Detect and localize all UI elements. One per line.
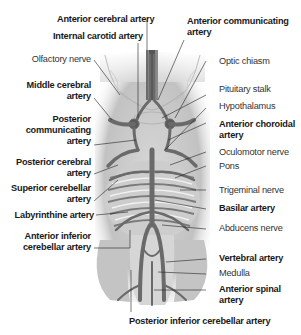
label-line: cerebellar artery — [23, 242, 91, 253]
label-line: artery — [27, 91, 91, 102]
label-line: Anterior spinal — [219, 284, 281, 295]
label-line: artery — [219, 130, 295, 141]
label-line: artery — [11, 194, 91, 205]
label-line: artery — [187, 27, 289, 38]
label-line: communicating — [26, 125, 91, 136]
label-superior-cerebellar-artery: Superior cerebellar artery — [11, 183, 91, 205]
label-anterior-cerebral-artery: Anterior cerebral artery — [57, 14, 154, 25]
label-posterior-inferior-cerebellar-artery: Posterior inferior cerebellar artery — [129, 316, 270, 327]
label-anterior-choroidal-artery: Anterior choroidal artery — [219, 119, 295, 141]
label-anterior-inferior-cerebellar-artery: Anterior inferior cerebellar artery — [23, 231, 91, 253]
label-middle-cerebral-artery: Middle cerebral artery — [27, 80, 91, 102]
label-line: artery — [16, 168, 91, 179]
label-line: Anterior inferior — [23, 231, 91, 242]
label-anterior-spinal-artery: Anterior spinal artery — [219, 284, 281, 306]
label-line: Anterior choroidal — [219, 119, 295, 130]
label-pituitary-stalk: Pituitary stalk — [219, 84, 271, 95]
label-posterior-cerebral-artery: Posterior cerebral artery — [16, 157, 91, 179]
label-abducens-nerve: Abducens nerve — [219, 223, 283, 234]
label-vertebral-artery: Vertebral artery — [219, 253, 283, 264]
label-line: artery — [26, 136, 91, 147]
label-pons: Pons — [219, 161, 239, 172]
label-line: Superior cerebellar — [11, 183, 91, 194]
label-basilar-artery: Basilar artery — [219, 203, 275, 214]
label-oculomotor-nerve: Oculomotor nerve — [219, 147, 289, 158]
label-anterior-communicating-artery: Anterior communicating artery — [187, 16, 289, 38]
label-trigeminal-nerve: Trigeminal nerve — [219, 185, 284, 196]
label-line: Anterior communicating — [187, 16, 289, 27]
label-hypothalamus: Hypothalamus — [219, 101, 275, 112]
label-line: artery — [219, 295, 281, 306]
label-line: Posterior cerebral — [16, 157, 91, 168]
label-internal-carotid-artery: Internal carotid artery — [53, 31, 143, 42]
label-optic-chiasm: Optic chiasm — [219, 56, 270, 67]
label-medulla: Medulla — [219, 268, 250, 279]
label-olfactory-nerve: Olfactory nerve — [32, 54, 91, 65]
label-labyrinthine-artery: Labyrinthine artery — [15, 210, 94, 221]
label-line: Posterior — [26, 114, 91, 125]
label-line: Middle cerebral — [27, 80, 91, 91]
label-posterior-communicating-artery: Posterior communicating artery — [26, 114, 91, 147]
